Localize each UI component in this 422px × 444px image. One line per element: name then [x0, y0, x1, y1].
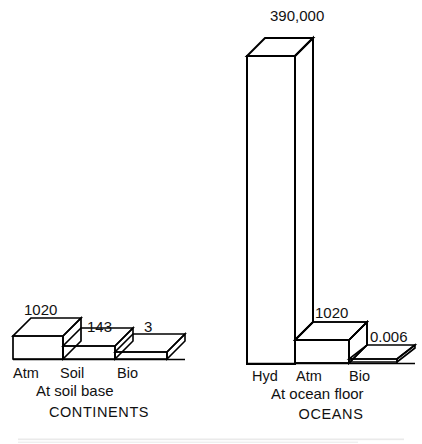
bar-oceans-atm-front-overlay	[295, 340, 349, 363]
bar-oceans-bio-front	[349, 359, 397, 362]
group-oceans: 390,000 1020 0.006 Hyd Atm Bio At ocean …	[247, 7, 415, 422]
clipped-caption-strip	[18, 439, 404, 444]
bar-oceans-atm-top-overlay	[295, 322, 367, 340]
value-label-continents-bio: 3	[144, 318, 152, 335]
subtitle-continents: At soil base	[36, 382, 114, 399]
category-label-oceans-atm: Atm	[296, 368, 322, 384]
bar-oceans-hyd-front	[247, 56, 295, 364]
category-label-oceans-hyd: Hyd	[252, 368, 278, 384]
category-label-oceans-bio: Bio	[349, 368, 370, 384]
value-label-oceans-hyd: 390,000	[270, 7, 324, 24]
value-label-continents-soil: 143	[87, 318, 112, 335]
group-title-continents: CONTINENTS	[49, 404, 149, 420]
bar-continents-atm-front	[13, 336, 63, 359]
value-label-continents-atm: 1020	[24, 301, 57, 318]
category-label-continents-bio: Bio	[117, 365, 138, 381]
subtitle-oceans: At ocean floor	[271, 385, 364, 402]
category-label-continents-atm: Atm	[13, 365, 39, 381]
group-title-oceans: OCEANS	[299, 406, 364, 422]
bar-continents-bio-front	[115, 352, 167, 359]
value-label-oceans-bio: 0.006	[370, 328, 408, 345]
bar-continents-soil-front	[63, 346, 115, 359]
bar-continents-bio-side	[167, 334, 185, 359]
bar-oceans-bio-side	[397, 345, 415, 362]
bar-oceans-hyd-side	[295, 38, 313, 340]
bar-oceans-hyd[interactable]	[247, 38, 313, 364]
carbon-reservoir-isometric-bar-chart: 1020 143 3 Atm Soil Bio At soil base CON…	[0, 0, 422, 444]
figure-canvas: 1020 143 3 Atm Soil Bio At soil base CON…	[0, 0, 422, 444]
bar-oceans-atm-top	[295, 322, 367, 340]
value-label-oceans-atm: 1020	[315, 304, 348, 321]
bar-oceans-atm-front	[295, 340, 349, 363]
bar-continents-atm-side	[63, 318, 81, 359]
group-continents: 1020 143 3 Atm Soil Bio At soil base CON…	[13, 301, 185, 420]
bar-continents-bio[interactable]	[115, 334, 185, 359]
category-label-continents-soil: Soil	[60, 365, 84, 381]
